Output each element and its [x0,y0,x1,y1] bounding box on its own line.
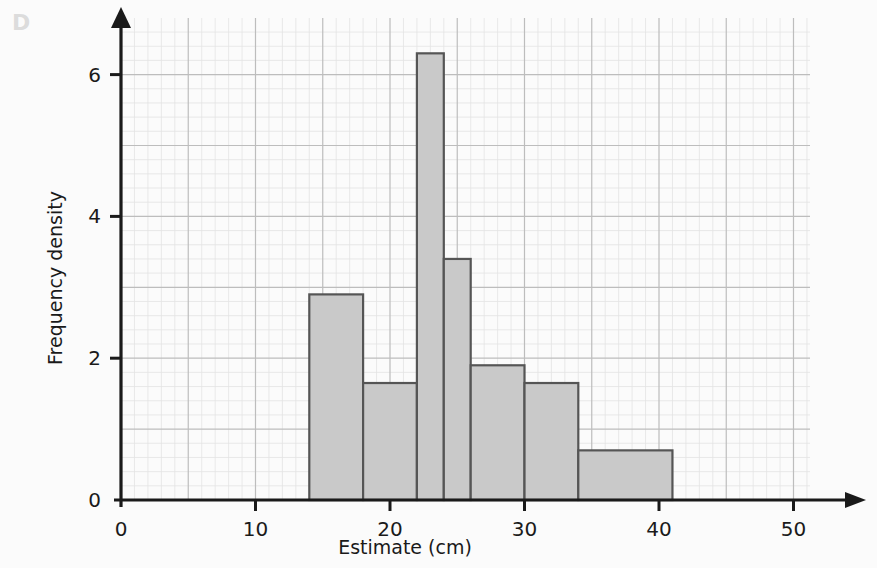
x-axis-arrow-icon [845,492,866,508]
y-axis-arrow-icon [111,7,131,28]
x-axis-tick-label: 0 [115,517,128,541]
x-axis-tick-label: 30 [512,517,537,541]
histogram-bar [444,259,471,500]
y-axis-tick-label: 6 [88,63,101,87]
y-axis-tick-label: 0 [88,488,101,512]
y-axis-tick-label: 4 [88,204,101,228]
y-axis-tick-label: 2 [88,346,101,370]
histogram-bar [363,383,417,500]
y-axis-title: Frequency density [44,191,66,365]
histogram-bar [309,294,363,500]
histogram-bar [471,365,525,500]
chart-root: D 010203040500246 Estimate (cm) Frequenc… [0,0,877,568]
histogram-bar [578,450,672,500]
x-axis-tick-label: 40 [646,517,671,541]
bars-group [309,53,672,500]
x-axis-tick-label: 10 [243,517,268,541]
histogram-bar [417,53,444,500]
histogram-bar [525,383,579,500]
x-axis-title: Estimate (cm) [338,536,472,558]
x-axis-tick-label: 50 [781,517,806,541]
histogram-chart: 010203040500246 Estimate (cm) Frequency … [0,0,877,568]
